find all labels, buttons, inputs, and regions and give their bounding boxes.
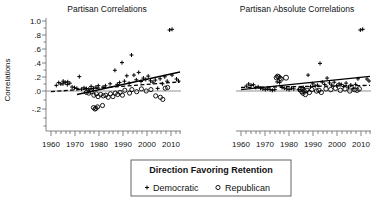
panel-left-plot xyxy=(46,27,181,111)
panel-title-right: Partisan Absolute Correlations xyxy=(240,4,354,14)
y-tick-label: 1.0 xyxy=(30,17,42,26)
x-tick-label: 1980 xyxy=(90,140,108,149)
y-tick-label: .0 xyxy=(34,87,41,96)
x-axis-right: 1960 1970 1980 1990 2000 2010 xyxy=(232,131,371,149)
panel-title-left: Partisan Correlations xyxy=(67,4,146,14)
y-tick-label: .6 xyxy=(34,45,41,54)
x-tick-label: 1990 xyxy=(114,140,132,149)
legend-label-republican: Republican xyxy=(225,183,270,193)
panel-right-plot xyxy=(236,27,371,96)
y-axis xyxy=(42,18,46,131)
x-tick-label: 1960 xyxy=(232,140,250,149)
legend-item-republican[interactable]: Republican xyxy=(216,183,270,193)
y-tick-label: .2 xyxy=(34,73,41,82)
x-axis-left: 1960 1970 1980 1990 2000 2010 xyxy=(42,131,181,149)
legend-item-democratic[interactable]: Democratic xyxy=(145,183,199,193)
x-tick-label: 1990 xyxy=(304,140,322,149)
y-tick-label: -.2 xyxy=(32,105,42,114)
y-axis-label: Correlations xyxy=(3,58,12,101)
y-axis-ticklabels: 1.0 .8 .6 .4 .2 .0 -.2 xyxy=(30,17,42,114)
legend-title: Direction Favoring Retention xyxy=(149,165,273,175)
legend-label-democratic: Democratic xyxy=(153,183,199,193)
figure-container: Partisan Correlations Partisan Absolute … xyxy=(0,0,390,201)
x-tick-label: 1970 xyxy=(66,140,84,149)
y-tick-label: .8 xyxy=(34,31,41,40)
series-democratic-markers xyxy=(54,27,180,91)
x-tick-label: 1980 xyxy=(280,140,298,149)
series-republican-markers xyxy=(84,85,169,111)
x-tick-label: 2000 xyxy=(328,140,346,149)
legend: Direction Favoring Retention Democratic … xyxy=(131,160,291,196)
x-tick-label: 2000 xyxy=(138,140,156,149)
x-tick-label: 2010 xyxy=(352,140,370,149)
y-tick-label: .4 xyxy=(34,59,41,68)
x-tick-label: 2010 xyxy=(162,140,180,149)
x-tick-label: 1970 xyxy=(256,140,274,149)
x-tick-label: 1960 xyxy=(42,140,60,149)
chart-svg: Partisan Correlations Partisan Absolute … xyxy=(0,0,390,201)
